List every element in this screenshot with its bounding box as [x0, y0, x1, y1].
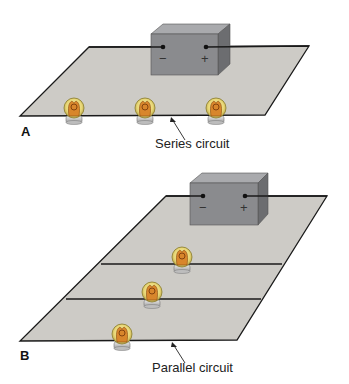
parallel-caption: Parallel circuit [152, 360, 233, 375]
negative-terminal [201, 194, 206, 199]
bulb-icon [142, 282, 162, 309]
circuit-diagram [0, 0, 349, 384]
negative-symbol: − [199, 200, 207, 215]
bulb-icon [172, 247, 192, 274]
positive-symbol: + [240, 200, 248, 215]
panel-label-a: A [21, 124, 30, 139]
bulb-icon [135, 98, 155, 125]
bulb-icon [64, 98, 84, 125]
parallel-circuit-panel [20, 173, 327, 363]
pointer-arrow-icon [170, 117, 176, 122]
bulb-icon [206, 98, 226, 125]
positive-terminal [243, 194, 248, 199]
series-circuit-panel [20, 24, 309, 140]
panel-label-b: B [20, 348, 29, 363]
pointer-arrow-icon [171, 342, 177, 347]
positive-terminal [204, 45, 209, 50]
positive-symbol: + [201, 51, 209, 66]
series-caption: Series circuit [155, 136, 229, 151]
negative-symbol: − [159, 51, 167, 66]
parallel-board [20, 196, 327, 341]
negative-terminal [161, 45, 166, 50]
bulb-icon [112, 324, 132, 351]
